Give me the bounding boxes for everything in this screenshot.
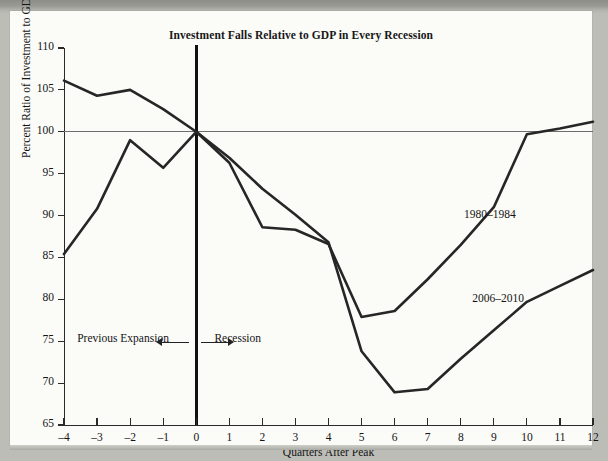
series-lines — [64, 48, 593, 425]
y-tick-label-80: 80 — [14, 291, 54, 303]
series-line-2006-2010 — [64, 81, 593, 393]
x-tick-label--1: –1 — [148, 431, 178, 443]
y-axis-title: Percent Ratio of Investment to GDP, Inde… — [20, 0, 32, 158]
figure-canvas: Investment Falls Relative to GDP in Ever… — [10, 11, 592, 445]
x-tick-label-7: 7 — [413, 431, 443, 443]
x-tick-label-8: 8 — [446, 431, 476, 443]
arrow-right-icon — [201, 337, 235, 347]
x-tick-label--2: –2 — [115, 431, 145, 443]
chart-title: Investment Falls Relative to GDP in Ever… — [10, 29, 592, 41]
x-tick-label-12: 12 — [578, 431, 608, 443]
y-tick-label-95: 95 — [14, 166, 54, 178]
y-tick-label-85: 85 — [14, 249, 54, 261]
x-tick-label--3: –3 — [82, 431, 112, 443]
x-tick-label--4: –4 — [49, 431, 79, 443]
y-tick-label-90: 90 — [14, 208, 54, 220]
x-tick-label-1: 1 — [214, 431, 244, 443]
series-label-1980-1984: 1980–1984 — [464, 208, 516, 220]
x-tick-label-0: 0 — [181, 431, 211, 443]
x-tick-label-10: 10 — [512, 431, 542, 443]
previous-expansion-label: Previous Expansion — [77, 332, 169, 344]
x-axis-title: Quarters After Peak — [64, 446, 593, 458]
x-axis-line — [64, 425, 593, 426]
y-tick-label-70: 70 — [14, 375, 54, 387]
figure-page: Investment Falls Relative to GDP in Ever… — [0, 0, 608, 461]
x-tick-label-9: 9 — [479, 431, 509, 443]
y-tick-label-75: 75 — [14, 333, 54, 345]
x-tick-label-6: 6 — [380, 431, 410, 443]
arrow-left-icon — [156, 337, 190, 347]
x-tick-label-3: 3 — [280, 431, 310, 443]
x-tick-label-5: 5 — [347, 431, 377, 443]
plot-area: 65707580859095100105110 –4–3–2–101234567… — [64, 48, 593, 425]
x-tick-label-2: 2 — [247, 431, 277, 443]
x-tick-label-11: 11 — [545, 431, 575, 443]
y-tick-label-65: 65 — [14, 417, 54, 429]
series-label-2006-2010: 2006–2010 — [472, 292, 524, 304]
x-tick-label-4: 4 — [314, 431, 344, 443]
